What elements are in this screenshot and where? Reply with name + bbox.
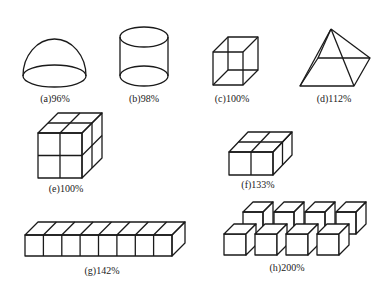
cube-2x2-shape [38, 113, 102, 178]
label-f: (f)133% [241, 179, 274, 190]
cube-shape [213, 37, 258, 85]
label-e: (e)100% [49, 183, 83, 194]
bar-1x8-shape [25, 222, 185, 256]
cylinder-shape [120, 27, 168, 86]
label-d: (d)112% [317, 93, 352, 104]
label-a: (a)96% [40, 93, 69, 104]
label-b: (b)98% [129, 93, 159, 104]
shapes-figure [0, 0, 389, 292]
label-h: (h)200% [270, 262, 305, 273]
staggered-cubes-shape [224, 202, 366, 255]
pyramid-shape [300, 29, 370, 86]
slab-2x2-shape [229, 132, 292, 175]
label-g: (g)142% [85, 265, 120, 276]
hemisphere-shape [23, 39, 86, 87]
label-c: (c)100% [215, 93, 249, 104]
